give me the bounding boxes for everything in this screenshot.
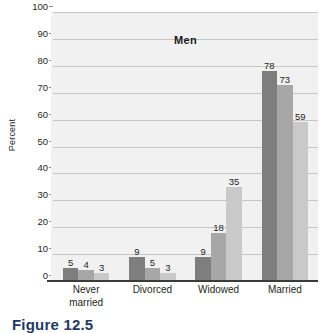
- x-axis-category-labels: NevermarriedDivorcedWidowedMarried: [53, 284, 318, 320]
- bar-value-label: 35: [229, 176, 240, 187]
- bar-value-label: 59: [295, 111, 306, 122]
- y-axis-tick-80: 80: [18, 56, 48, 66]
- bar-group-never-married: 543: [63, 12, 110, 281]
- bar-group-divorced: 953: [129, 12, 176, 281]
- y-axis-tick-30: 30: [18, 190, 48, 200]
- x-axis-label-line: Widowed: [186, 284, 252, 297]
- x-axis-line: [47, 280, 318, 282]
- bar-value-label: 3: [165, 262, 170, 273]
- x-axis-label-line: married: [53, 297, 119, 310]
- bar-value-label: 9: [134, 246, 139, 257]
- bar-group-married: 787359: [262, 12, 309, 281]
- bar-value-label: 5: [68, 257, 73, 268]
- y-axis-tick-90: 90: [18, 29, 48, 39]
- bar[interactable]: 78: [262, 71, 278, 281]
- bar[interactable]: 5: [63, 268, 79, 281]
- y-axis-tick-mark: [49, 6, 53, 7]
- x-axis-label-line: Married: [252, 284, 318, 297]
- bar[interactable]: 5: [145, 268, 161, 281]
- x-axis-label-line: Never: [53, 284, 119, 297]
- y-axis-tick-0: 0: [18, 271, 48, 281]
- y-axis-tick-60: 60: [18, 110, 48, 120]
- bar[interactable]: 73: [277, 85, 293, 281]
- y-axis-tick-70: 70: [18, 83, 48, 93]
- bar[interactable]: 18: [211, 233, 227, 281]
- plot-area: Men 54395391835787359: [53, 12, 318, 281]
- x-axis-label-widowed: Widowed: [186, 284, 252, 297]
- y-axis-title: Percent: [7, 100, 17, 170]
- bar[interactable]: 9: [195, 257, 211, 281]
- bar[interactable]: 59: [293, 122, 309, 281]
- x-axis-label-married: Married: [252, 284, 318, 297]
- bar-groups: 54395391835787359: [53, 12, 318, 281]
- x-axis-label-divorced: Divorced: [119, 284, 185, 297]
- bar-value-label: 73: [280, 74, 291, 85]
- y-axis-tick-20: 20: [18, 217, 48, 227]
- bar-value-label: 9: [200, 246, 205, 257]
- y-axis-tick-100: 100: [18, 2, 48, 12]
- y-axis-tick-40: 40: [18, 163, 48, 173]
- x-axis-label-never-married: Nevermarried: [53, 284, 119, 309]
- bar-value-label: 4: [83, 259, 88, 270]
- bar-value-label: 18: [213, 222, 224, 233]
- figure-caption: Figure 12.5: [12, 316, 93, 333]
- x-axis-label-line: Divorced: [119, 284, 185, 297]
- bar-value-label: 5: [150, 257, 155, 268]
- bar-group-widowed: 91835: [195, 12, 242, 281]
- bar[interactable]: 35: [226, 187, 242, 281]
- bar-value-label: 78: [264, 60, 275, 71]
- y-axis-tick-labels: 1009080706050403020100: [18, 7, 48, 281]
- y-axis-tick-10: 10: [18, 244, 48, 254]
- y-axis-tick-50: 50: [18, 137, 48, 147]
- bar-value-label: 3: [99, 262, 104, 273]
- bar[interactable]: 9: [129, 257, 145, 281]
